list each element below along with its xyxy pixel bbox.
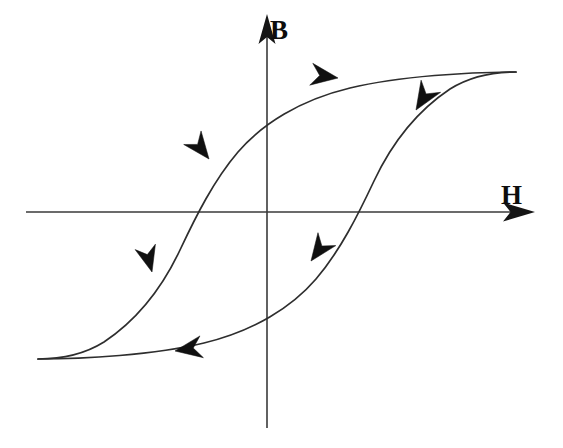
hysteresis-plot-svg	[0, 0, 563, 448]
descending-branch-curve	[38, 72, 516, 359]
axes-group	[26, 14, 535, 428]
b-axis-label: B	[270, 17, 289, 44]
arrow-lower-descending	[135, 244, 162, 275]
hysteresis-figure: B H	[0, 0, 563, 448]
hysteresis-loop-group	[38, 72, 516, 359]
ascending-branch-curve	[38, 72, 516, 359]
arrow-upper-descending	[310, 63, 340, 89]
h-axis-label: H	[501, 182, 523, 209]
arrow-mid-ascending	[302, 233, 336, 268]
arrow-mid-descending	[184, 131, 218, 166]
